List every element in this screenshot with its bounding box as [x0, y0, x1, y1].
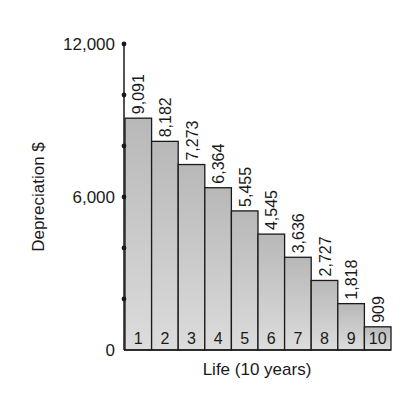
category-label: 10	[369, 330, 387, 347]
category-label: 7	[293, 330, 302, 347]
category-label: 5	[240, 330, 249, 347]
value-label: 1,818	[343, 260, 360, 300]
minor-tick-dot	[122, 297, 127, 302]
value-label: 5,455	[237, 167, 254, 207]
value-label: 909	[370, 296, 387, 323]
y-tick-label: 12,000	[63, 35, 115, 54]
category-label: 8	[320, 330, 329, 347]
bar	[205, 188, 232, 350]
bars-group: 19,09128,18237,27346,36455,45564,54573,6…	[125, 74, 391, 350]
value-label: 4,545	[263, 190, 280, 230]
bar	[178, 165, 205, 350]
category-label: 3	[187, 330, 196, 347]
tick-dot	[122, 42, 127, 47]
tick-dot	[122, 195, 127, 200]
category-label: 6	[267, 330, 276, 347]
bar	[125, 118, 152, 350]
minor-tick-dot	[122, 246, 127, 251]
y-tick-label: 0	[106, 341, 115, 360]
category-label: 9	[347, 330, 356, 347]
category-label: 4	[214, 330, 223, 347]
category-label: 1	[134, 330, 143, 347]
value-label: 6,364	[210, 144, 227, 184]
depreciation-bar-chart: 19,09128,18237,27346,36455,45564,54573,6…	[0, 0, 415, 399]
y-axis-label: Depreciation $	[29, 142, 48, 252]
minor-tick-dot	[122, 93, 127, 98]
minor-tick-dot	[122, 144, 127, 149]
value-label: 8,182	[157, 97, 174, 137]
category-label: 2	[160, 330, 169, 347]
x-axis-label: Life (10 years)	[203, 360, 312, 379]
y-tick-label: 6,000	[72, 188, 115, 207]
value-label: 7,273	[184, 120, 201, 160]
value-label: 9,091	[130, 74, 147, 114]
value-label: 3,636	[290, 213, 307, 253]
bar	[152, 141, 179, 350]
value-label: 2,727	[317, 236, 334, 276]
